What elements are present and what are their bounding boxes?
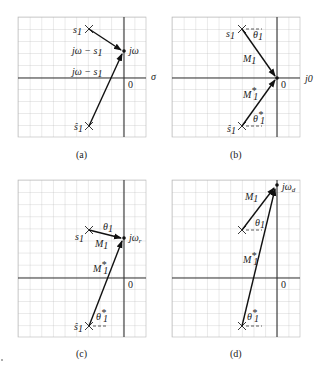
label-origin: 0 (128, 79, 133, 90)
caption-c: (c) (76, 348, 87, 360)
label-origin: 0 (281, 79, 286, 90)
point-origin (275, 76, 279, 80)
stray-dot (1, 359, 3, 361)
panel-d: M1 θ1 M*1 θ*1 0 jωd (d) (172, 180, 300, 360)
caption-a: (a) (76, 149, 87, 161)
panel-a: s1 ŝ1 jω jω − s1 jω − s1 0 σ (a) (18, 17, 157, 161)
label-origin: 0 (281, 279, 286, 290)
caption-d: (d) (230, 348, 242, 360)
label-jw: jω (127, 45, 139, 56)
caption-b: (b) (230, 149, 242, 161)
grid (172, 180, 300, 337)
label-j0: j0 (303, 73, 313, 84)
grid (18, 17, 146, 137)
point-jwr (122, 236, 126, 240)
point-jw (122, 49, 126, 53)
pole-vector-diagram: s1 ŝ1 jω jω − s1 jω − s1 0 σ (a) s1 ŝ1 θ… (0, 0, 321, 365)
panel-c: s1 ŝ1 θ1 θ*1 M1 M*1 0 jωr (c) (18, 180, 146, 360)
panel-b: s1 ŝ1 θ1 θ*1 M1 M*1 0 j0 (b) (172, 17, 313, 161)
grid (18, 180, 146, 337)
label-origin: 0 (128, 279, 133, 290)
point-jwd (275, 183, 279, 187)
grid (172, 17, 300, 137)
label-sigma: σ (151, 71, 157, 82)
